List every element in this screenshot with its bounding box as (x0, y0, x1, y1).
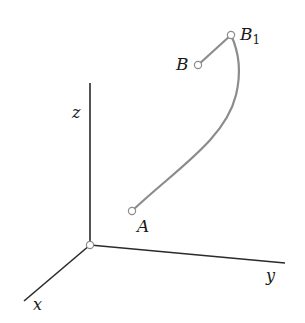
label-b: B (175, 54, 189, 74)
label-b1-sub: 1 (253, 33, 261, 47)
segment-b-b1 (198, 35, 231, 65)
point-b (194, 61, 201, 68)
diagram-canvas: z y x A B B1 (0, 0, 305, 323)
label-b1: B1 (239, 24, 260, 47)
point-b1 (227, 31, 234, 38)
point-a (128, 207, 135, 214)
label-x: x (33, 295, 42, 314)
y-axis (90, 245, 285, 263)
x-axis (24, 245, 90, 301)
origin-point (86, 241, 93, 248)
label-b1-base: B (239, 24, 253, 44)
label-y: y (265, 266, 276, 285)
label-a: A (135, 216, 149, 236)
label-z: z (71, 103, 81, 122)
